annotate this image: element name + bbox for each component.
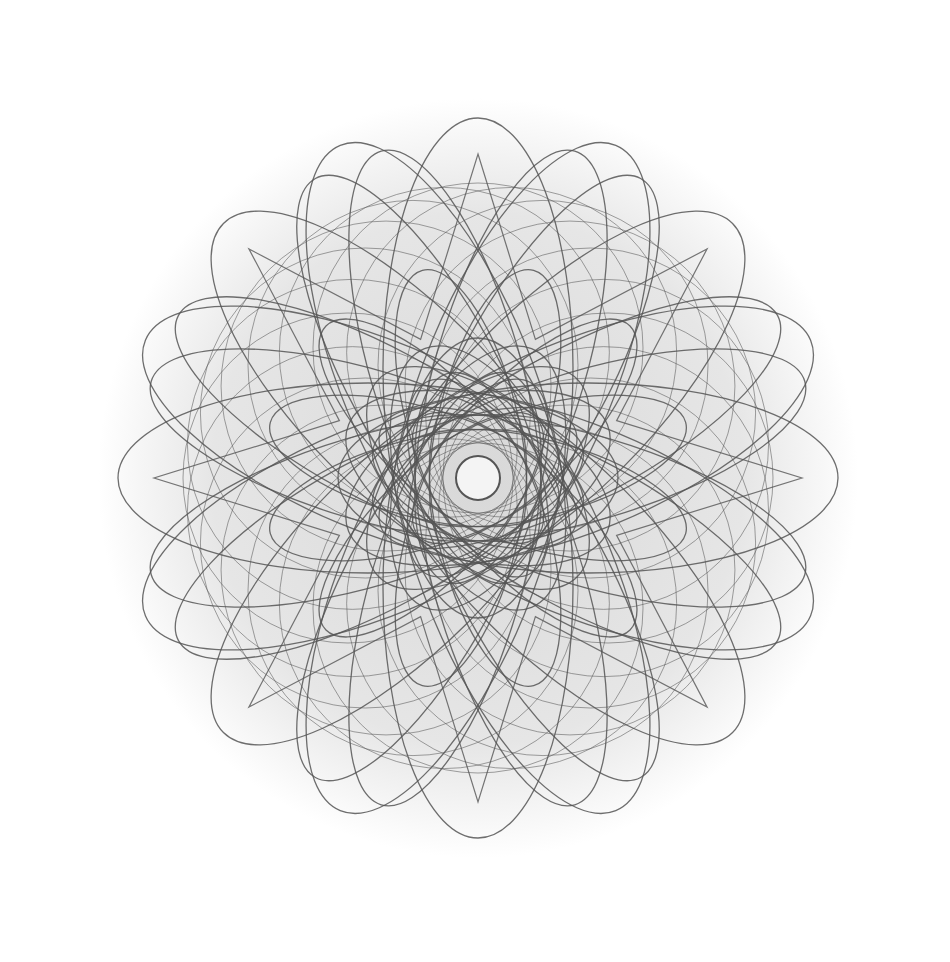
rosette-artwork [0,0,950,962]
